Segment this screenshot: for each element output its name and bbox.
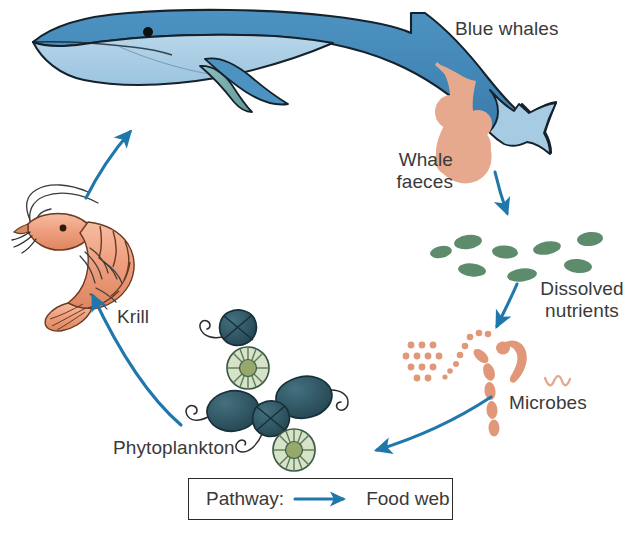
whale-eye (143, 27, 153, 37)
food-web-diagram (0, 0, 639, 546)
label-whale-faeces: Whale faeces (381, 149, 453, 194)
label-microbes: Microbes (509, 392, 587, 414)
legend-series-label: Food web (366, 488, 449, 510)
faeces-lobe-a (435, 95, 467, 129)
legend-pathway-label: Pathway: (206, 488, 284, 510)
label-blue-whales: Blue whales (455, 18, 559, 40)
label-dissolved-nutrients: Dissolved nutrients (529, 278, 635, 323)
legend-box: Pathway: Food web (188, 478, 453, 520)
legend-arrow-icon (293, 491, 355, 507)
phyto-diatom (227, 347, 269, 389)
krill-eye (60, 225, 67, 232)
phyto-diatom (273, 429, 315, 471)
label-phytoplankton: Phytoplankton (113, 437, 235, 459)
microbe-comma-head (496, 342, 510, 355)
faeces-lobe-d (464, 110, 492, 138)
label-krill: Krill (117, 306, 149, 328)
